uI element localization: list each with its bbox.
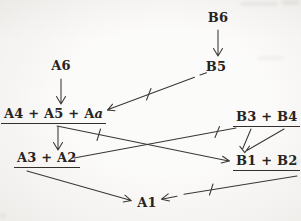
node-a1: A1	[137, 195, 157, 210]
node-a4-a5-aa-label: A4 + A5 + A	[4, 106, 94, 121]
node-b6: B6	[208, 10, 228, 25]
node-a3-a2: A3 + A2	[14, 150, 80, 168]
node-b5: B5	[206, 59, 226, 74]
stemma-diagram: B6 B5 A6 A4 + A5 + Aa B3 + B4 A3 + A2 B1…	[0, 0, 301, 221]
edge-a4a5aa-a3a2	[54, 127, 63, 150]
node-a4-a5-aa: A4 + A5 + Aa	[1, 106, 106, 124]
edge-b3b4-b1b2	[240, 129, 284, 153]
node-a6: A6	[51, 58, 71, 73]
node-b1-b2: B1 + B2	[233, 153, 300, 171]
edge-b5-a4a5aa	[108, 73, 207, 111]
node-b3-b4: B3 + B4	[233, 109, 300, 127]
edge-a4a5aa-b1b2	[57, 126, 230, 163]
edge-a3a2-a1	[27, 171, 131, 202]
edge-a6-a4a5aa	[57, 79, 66, 104]
edge-b1b2-a1	[162, 176, 298, 201]
node-a4-a5-aa-italic-suffix: a	[94, 106, 103, 121]
edge-b3b4-a3a2	[74, 128, 236, 158]
edge-b6-b5	[214, 30, 223, 56]
